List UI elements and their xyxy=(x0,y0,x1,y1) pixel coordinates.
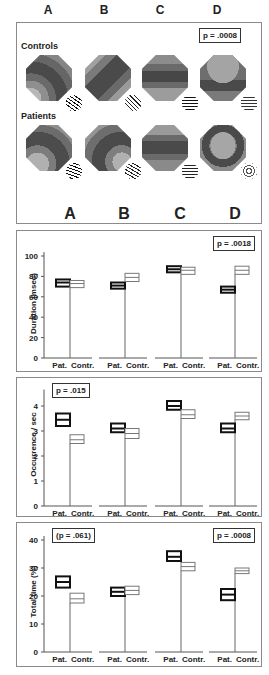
y-tick-label: 20 xyxy=(29,334,38,343)
x-label-controls: Contr. xyxy=(236,361,259,370)
contour-patients-b xyxy=(125,163,141,179)
y-tick-label: 30 xyxy=(29,564,38,573)
x-label-controls: Contr. xyxy=(71,509,94,518)
map-patients-c xyxy=(142,125,188,171)
x-label-patients: Pat. xyxy=(52,509,67,518)
controls-label: Controls xyxy=(21,41,58,51)
map-patients-d xyxy=(200,125,246,171)
chart-column-label-d: D xyxy=(225,205,245,223)
contour-controls-a xyxy=(66,95,82,111)
control-box xyxy=(181,267,195,274)
y-tick-label: 3 xyxy=(34,427,39,436)
x-label-controls: Contr. xyxy=(236,655,259,664)
contour-controls-c xyxy=(182,95,198,111)
y-tick-label: 1 xyxy=(34,477,39,486)
y-tick-label: 2 xyxy=(34,452,39,461)
y-tick-label: 100 xyxy=(25,252,39,261)
x-label-patients: Pat. xyxy=(107,655,122,664)
map-patients-b xyxy=(85,125,131,171)
y-tick-label: 40 xyxy=(29,313,38,322)
chart-plot: 010203040Pat.Contr.Pat.Contr.Pat.Contr.P… xyxy=(17,523,261,666)
control-box xyxy=(181,410,195,419)
x-label-patients: Pat. xyxy=(163,361,178,370)
map-controls-a xyxy=(26,55,72,101)
chart-duration: Duration (msec) p = .0018 020406080100Pa… xyxy=(16,230,262,372)
contour-controls-b xyxy=(125,95,141,111)
y-tick-label: 0 xyxy=(34,648,39,657)
x-label-controls: Contr. xyxy=(182,655,205,664)
x-label-patients: Pat. xyxy=(107,361,122,370)
chart-column-label-a: A xyxy=(60,205,80,223)
x-label-controls: Contr. xyxy=(71,361,94,370)
x-label-controls: Contr. xyxy=(182,509,205,518)
column-label-a: A xyxy=(38,3,58,17)
patients-label: Patients xyxy=(21,111,56,121)
y-tick-label: 40 xyxy=(29,536,38,545)
chart-plot: 020406080100Pat.Contr.Pat.Contr.Pat.Cont… xyxy=(17,231,261,371)
chart-occurrence: Occurrence / sec p = .015 01234Pat.Contr… xyxy=(16,377,262,517)
chart-plot: 01234Pat.Contr.Pat.Contr.Pat.Contr.Pat.C… xyxy=(17,378,261,516)
x-label-controls: Contr. xyxy=(236,509,259,518)
map-controls-d xyxy=(200,55,246,101)
x-label-patients: Pat. xyxy=(163,509,178,518)
column-label-c: C xyxy=(150,3,170,17)
x-label-patients: Pat. xyxy=(163,655,178,664)
map-patients-a xyxy=(26,125,72,171)
x-label-patients: Pat. xyxy=(52,361,67,370)
chart-column-label-c: C xyxy=(170,205,190,223)
x-label-controls: Contr. xyxy=(126,361,149,370)
maps-panel: p = .0008 Controls Patients xyxy=(16,22,262,224)
y-tick-label: 80 xyxy=(29,272,38,281)
x-label-controls: Contr. xyxy=(71,655,94,664)
y-tick-label: 10 xyxy=(29,620,38,629)
contour-patients-a xyxy=(66,163,82,179)
contour-patients-c xyxy=(182,163,198,179)
chart-total-time: Total time (%) (p = .061) p = .0008 0102… xyxy=(16,522,262,667)
y-tick-label: 0 xyxy=(34,502,39,511)
x-label-patients: Pat. xyxy=(52,655,67,664)
control-box xyxy=(70,593,84,603)
chart-column-label-b: B xyxy=(114,205,134,223)
column-label-d: D xyxy=(207,3,227,17)
x-label-controls: Contr. xyxy=(126,655,149,664)
map-controls-b xyxy=(85,55,131,101)
control-box xyxy=(70,280,84,287)
x-label-controls: Contr. xyxy=(182,361,205,370)
x-label-controls: Contr. xyxy=(126,509,149,518)
y-tick-label: 60 xyxy=(29,293,38,302)
map-controls-c xyxy=(142,55,188,101)
column-label-b: B xyxy=(94,3,114,17)
control-box xyxy=(70,435,84,444)
maps-p-value: p = .0008 xyxy=(199,28,241,43)
x-label-patients: Pat. xyxy=(217,655,232,664)
x-label-patients: Pat. xyxy=(217,361,232,370)
x-label-patients: Pat. xyxy=(217,509,232,518)
contour-controls-d xyxy=(241,95,257,111)
y-tick-label: 0 xyxy=(34,354,39,363)
y-tick-label: 20 xyxy=(29,592,38,601)
contour-patients-d xyxy=(241,163,257,179)
y-tick-label: 4 xyxy=(34,402,39,411)
x-label-patients: Pat. xyxy=(107,509,122,518)
